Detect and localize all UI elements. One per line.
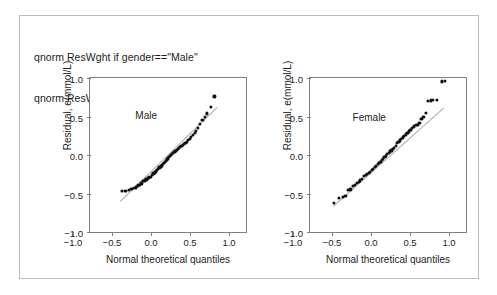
x-axis-tick-label: −1.0 xyxy=(276,237,310,248)
panel-group-label: Female xyxy=(353,111,386,122)
y-axis-tick-label: 1.0 xyxy=(70,74,83,85)
x-axis-tick-label: 0.0 xyxy=(354,237,388,248)
y-axis-tick: −0.5 xyxy=(284,185,310,203)
x-axis-tick-mark xyxy=(293,232,294,236)
x-axis-tick-mark xyxy=(332,232,333,236)
y-axis-tick-label: 0.0 xyxy=(290,151,303,162)
x-axis-tick-mark xyxy=(229,232,230,236)
data-point xyxy=(422,115,425,118)
y-axis-tick-mark xyxy=(307,194,311,195)
y-axis-tick-mark xyxy=(87,117,91,118)
y-axis-tick: 0.5 xyxy=(70,108,90,126)
x-axis-tick-mark xyxy=(190,232,191,236)
x-axis-tick-label: 0.5 xyxy=(393,237,427,248)
y-axis-tick: 1.0 xyxy=(70,69,90,87)
x-axis-tick-mark xyxy=(151,232,152,236)
command-line-male: qnorm ResWght if gender=="Male" xyxy=(34,51,210,65)
data-point xyxy=(195,129,198,132)
y-axis-tick: 0.0 xyxy=(70,146,90,164)
data-point xyxy=(420,118,423,121)
data-point xyxy=(424,111,427,114)
plot-area-female: −1.0−0.50.00.51.0−1.0−0.50.00.51.0Female xyxy=(309,77,467,233)
x-axis-tick-label: −0.5 xyxy=(95,237,129,248)
data-point xyxy=(201,119,204,122)
y-axis-tick-mark xyxy=(87,78,91,79)
y-axis-tick-label: −0.5 xyxy=(64,190,83,201)
data-point xyxy=(209,106,212,109)
data-point xyxy=(199,123,202,126)
x-axis-tick-label: −0.5 xyxy=(315,237,349,248)
x-axis-tick: −0.5 xyxy=(315,232,349,248)
x-axis-tick: −1.0 xyxy=(56,232,90,248)
data-point xyxy=(443,79,446,82)
plot-area-male: −1.0−0.50.00.51.0−1.0−0.50.00.51.0Male xyxy=(89,77,247,233)
x-axis-tick-mark xyxy=(112,232,113,236)
x-axis-tick: 0.5 xyxy=(393,232,427,248)
x-axis-label: Normal theoretical quantiles xyxy=(89,254,247,265)
x-axis-tick-mark xyxy=(73,232,74,236)
data-point xyxy=(418,121,421,124)
y-axis-tick-mark xyxy=(307,78,311,79)
data-point xyxy=(197,126,200,129)
y-axis-tick: 1.0 xyxy=(290,69,310,87)
data-point xyxy=(435,98,438,101)
y-axis-tick-mark xyxy=(87,194,91,195)
y-axis-tick: −0.5 xyxy=(64,185,90,203)
x-axis-label: Normal theoretical quantiles xyxy=(309,254,467,265)
x-axis-tick: 1.0 xyxy=(212,232,246,248)
y-axis-tick: 0.5 xyxy=(290,108,310,126)
y-axis-tick: 0.0 xyxy=(290,146,310,164)
x-axis-tick-label: 0.0 xyxy=(134,237,168,248)
x-axis-tick-mark xyxy=(371,232,372,236)
y-axis-tick-label: 1.0 xyxy=(290,74,303,85)
data-point xyxy=(394,145,397,148)
x-axis-tick: −1.0 xyxy=(276,232,310,248)
y-axis-tick-label: 0.0 xyxy=(70,151,83,162)
data-point xyxy=(213,95,216,98)
figure-frame: qnorm ResWght if gender=="Male" qnorm Re… xyxy=(19,15,479,279)
x-axis-tick-mark xyxy=(449,232,450,236)
reference-line xyxy=(333,107,444,206)
x-axis-tick: 0.0 xyxy=(354,232,388,248)
y-axis-tick-mark xyxy=(87,155,91,156)
y-axis-tick-mark xyxy=(307,155,311,156)
x-axis-tick: 1.0 xyxy=(432,232,466,248)
y-axis-tick-label: −0.5 xyxy=(284,190,303,201)
x-axis-tick-label: −1.0 xyxy=(56,237,90,248)
y-axis-tick-label: 0.5 xyxy=(70,113,83,124)
x-axis-tick-mark xyxy=(410,232,411,236)
x-axis-tick: −0.5 xyxy=(95,232,129,248)
y-axis-tick-label: 0.5 xyxy=(290,113,303,124)
data-point xyxy=(120,190,123,193)
x-axis-tick: 0.0 xyxy=(134,232,168,248)
x-axis-tick-label: 0.5 xyxy=(173,237,207,248)
data-point xyxy=(344,194,347,197)
x-axis-tick: 0.5 xyxy=(173,232,207,248)
panel-group-label: Male xyxy=(135,109,157,120)
x-axis-tick-label: 1.0 xyxy=(212,237,246,248)
x-axis-tick-label: 1.0 xyxy=(432,237,466,248)
y-axis-tick-mark xyxy=(307,117,311,118)
